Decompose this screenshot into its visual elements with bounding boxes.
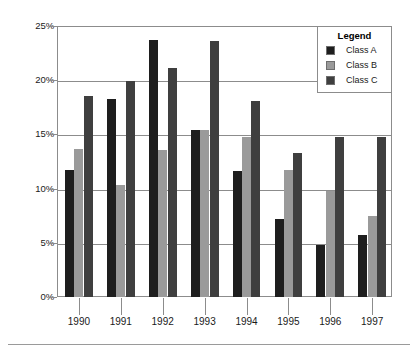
bar [84, 96, 93, 297]
x-axis-tick-label: 1995 [265, 316, 311, 327]
x-axis-tick-label: 1996 [307, 316, 353, 327]
x-axis-tick-label: 1990 [56, 316, 102, 327]
bar [358, 235, 367, 297]
y-axis-tick-label: 5% [6, 237, 54, 248]
x-axis-tick [121, 298, 122, 315]
y-axis-tick [50, 80, 57, 81]
y-axis-tick-label: 15% [6, 128, 54, 139]
y-axis-tick [50, 297, 57, 298]
bar [316, 245, 325, 297]
bar [107, 99, 116, 297]
bar [149, 40, 158, 297]
bar [275, 219, 284, 297]
x-axis-tick-label: 1997 [349, 316, 395, 327]
bar [74, 149, 83, 298]
bar [126, 81, 135, 297]
legend-swatch-icon [326, 76, 335, 85]
legend-label: Class C [346, 75, 378, 85]
bar [368, 216, 377, 297]
bar [65, 170, 74, 297]
y-axis-tick [50, 243, 57, 244]
x-axis-tick [163, 298, 164, 315]
x-axis-tick [330, 298, 331, 315]
bar [116, 185, 125, 297]
bar [168, 68, 177, 297]
x-axis-tick [288, 298, 289, 315]
x-axis-tick [372, 298, 373, 315]
legend-swatch-icon [326, 61, 335, 70]
y-axis-tick-label: 25% [6, 20, 54, 31]
bar [233, 171, 242, 297]
legend-entry[interactable]: Class C [326, 74, 392, 87]
y-axis-tick-label: 10% [6, 183, 54, 194]
x-axis-tick-label: 1993 [182, 316, 228, 327]
bar [242, 137, 251, 297]
x-axis-tick-label: 1992 [140, 316, 186, 327]
y-axis-tick [50, 134, 57, 135]
bar [377, 137, 386, 297]
bar [284, 170, 293, 297]
x-axis-tick [247, 298, 248, 315]
x-axis-tick-label: 1994 [224, 316, 270, 327]
bar [210, 41, 219, 297]
y-axis-tick [50, 26, 57, 27]
legend-label: Class B [346, 60, 377, 70]
y-axis-tick [50, 189, 57, 190]
footer-divider [8, 344, 410, 345]
legend-title: Legend [318, 30, 391, 41]
y-axis-tick-label: 0% [6, 291, 54, 302]
legend-entry[interactable]: Class B [326, 59, 392, 72]
x-axis-tick-label: 1991 [98, 316, 144, 327]
legend-entry[interactable]: Class A [326, 44, 392, 57]
y-axis-tick-label: 20% [6, 74, 54, 85]
x-axis-tick [79, 298, 80, 315]
legend: Legend Class AClass BClass C [317, 26, 392, 93]
bar [335, 137, 344, 297]
bar [191, 130, 200, 297]
legend-swatch-icon [326, 46, 335, 55]
legend-label: Class A [346, 45, 377, 55]
bar [158, 150, 167, 297]
bar [293, 153, 302, 297]
bar-chart: 0%5%10%15%20%25% 19901991199219931994199… [0, 0, 418, 359]
bar [326, 191, 335, 297]
bar [251, 101, 260, 297]
x-axis-tick [205, 298, 206, 315]
bar [200, 130, 209, 297]
